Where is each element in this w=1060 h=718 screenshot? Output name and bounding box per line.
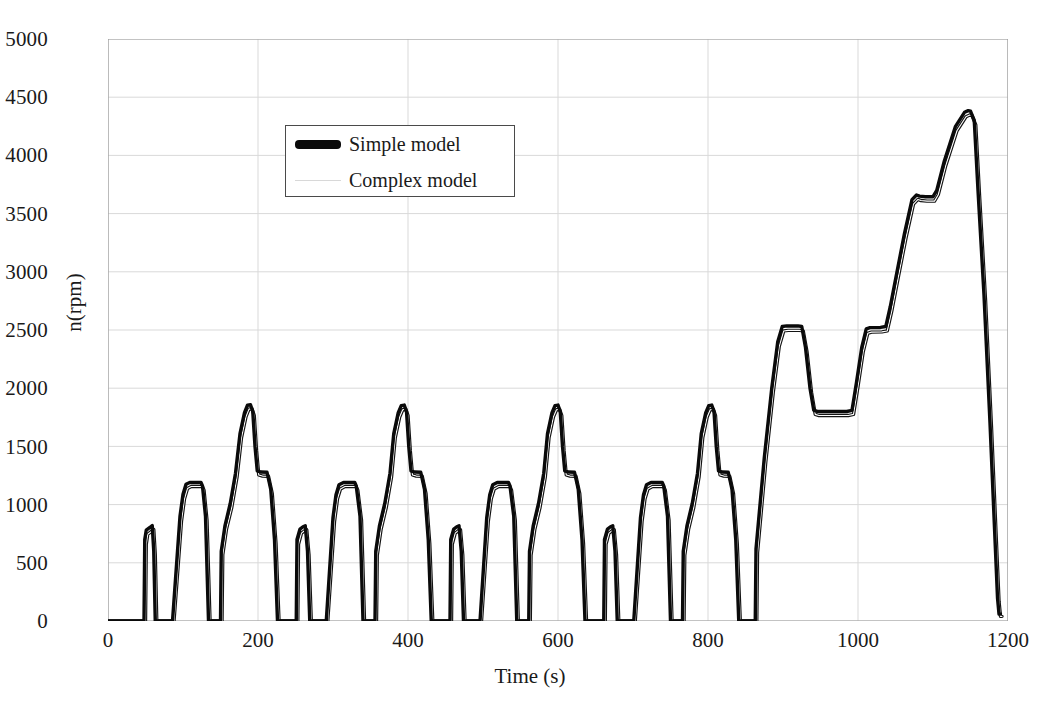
x-tick-0: 0	[48, 630, 168, 651]
legend-label-complex-model: Complex model	[343, 170, 477, 190]
y-tick-1000: 1000	[0, 495, 48, 516]
legend: Simple model Complex model	[285, 125, 515, 197]
legend-item-simple-model: Simple model	[286, 126, 514, 162]
gridlines	[108, 39, 1008, 621]
y-tick-0: 0	[0, 611, 48, 632]
chart-figure: 5000 4500 4000 3500 3000 2500 2000 1500 …	[0, 0, 1060, 718]
x-tick-600: 600	[498, 630, 618, 651]
y-tick-3500: 3500	[0, 204, 48, 225]
y-tick-3000: 3000	[0, 262, 48, 283]
y-tick-4500: 4500	[0, 87, 48, 108]
series-line-complex-model-core	[108, 115, 1002, 621]
x-tick-200: 200	[198, 630, 318, 651]
y-tick-4000: 4000	[0, 145, 48, 166]
plot-area	[108, 39, 1008, 621]
x-tick-1200: 1200	[948, 630, 1060, 651]
y-tick-1500: 1500	[0, 437, 48, 458]
y-tick-2000: 2000	[0, 378, 48, 399]
x-tick-800: 800	[648, 630, 768, 651]
y-tick-2500: 2500	[0, 320, 48, 341]
x-tick-1000: 1000	[798, 630, 918, 651]
y-axis-title: n(rpm)	[62, 223, 87, 383]
legend-swatch-thin-line-icon	[293, 162, 343, 198]
legend-label-simple-model: Simple model	[343, 134, 461, 154]
x-axis-title: Time (s)	[0, 664, 1060, 689]
series-line-complex-model-edge	[108, 115, 1002, 621]
series-line-simple-model	[108, 111, 1001, 621]
series-canvas	[108, 39, 1008, 621]
x-tick-400: 400	[348, 630, 468, 651]
legend-item-complex-model: Complex model	[286, 162, 514, 198]
y-tick-5000: 5000	[0, 29, 48, 50]
y-tick-500: 500	[0, 553, 48, 574]
series-line-complex-model	[108, 115, 1002, 621]
legend-swatch-thick-line-icon	[293, 126, 343, 162]
